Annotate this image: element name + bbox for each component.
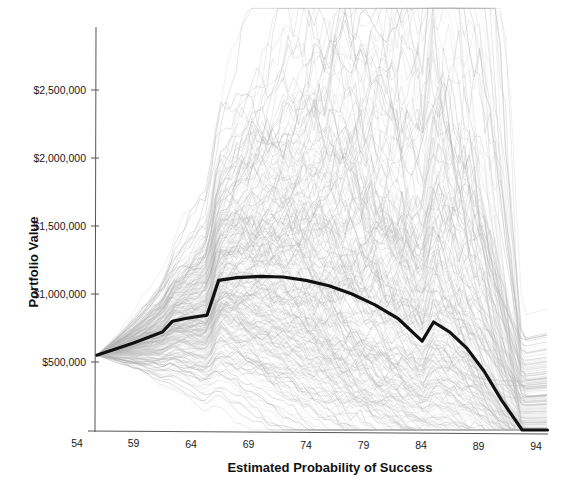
x-tick-label: 54 bbox=[71, 437, 83, 449]
x-tick-label: 79 bbox=[358, 439, 370, 451]
x-tick-label: 59 bbox=[128, 437, 140, 449]
y-tick-label: $1,500,000 bbox=[33, 220, 86, 232]
x-axis-title: Estimated Probability of Success bbox=[227, 460, 432, 475]
monte-carlo-chart: $500,000$1,000,000$1,500,000$2,000,000$2… bbox=[0, 0, 571, 499]
y-tick-label: $2,000,000 bbox=[33, 152, 86, 164]
x-tick-label: 84 bbox=[415, 439, 427, 451]
y-axis-ticks: $500,000$1,000,000$1,500,000$2,000,000$2… bbox=[33, 84, 99, 368]
x-tick-label: 69 bbox=[243, 438, 255, 450]
y-tick-label: $1,000,000 bbox=[33, 288, 86, 300]
x-tick-label: 94 bbox=[530, 440, 542, 452]
x-tick-label: 64 bbox=[185, 438, 197, 450]
x-axis-line bbox=[88, 431, 548, 434]
x-tick-label: 89 bbox=[473, 440, 485, 452]
y-tick-label: $2,500,000 bbox=[33, 84, 86, 96]
y-tick-label: $500,000 bbox=[42, 356, 86, 368]
y-axis-title: Portfolio Value bbox=[26, 216, 41, 307]
x-axis-ticks: 545964697479848994 bbox=[71, 437, 542, 452]
y-axis-line bbox=[95, 27, 96, 432]
x-tick-label: 74 bbox=[300, 439, 312, 451]
